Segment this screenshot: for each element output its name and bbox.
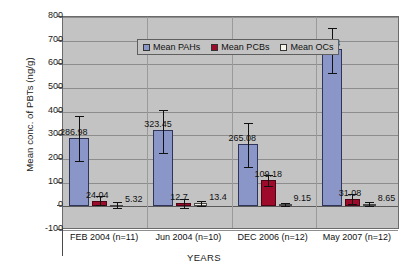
error-bar-cap-upper (159, 110, 168, 111)
data-label-pcb-1: 12.7 (170, 192, 188, 202)
legend-swatch-oc-icon (280, 44, 287, 51)
y-tick-mark (57, 134, 62, 135)
legend-item-pah: Mean PAHs (143, 42, 200, 52)
error-bar-cap-lower (197, 206, 206, 207)
y-tick-label: 100 (23, 176, 63, 186)
error-bar-cap-lower (180, 208, 189, 209)
error-bar-cap-upper (281, 203, 290, 204)
gridline--100 (63, 230, 398, 231)
y-tick-label: 400 (23, 105, 63, 115)
data-label-pcb-2: 109.18 (255, 169, 283, 179)
y-tick-mark (57, 229, 62, 230)
data-label-oc-2: 9.15 (294, 193, 312, 203)
error-bar-cap-upper (113, 202, 122, 203)
error-bar-cap-upper (328, 28, 337, 29)
error-bar-cap-lower (96, 205, 105, 206)
gridline-400 (63, 112, 398, 113)
y-tick-mark (57, 16, 62, 17)
category-label-1: Jun 2004 (n=10) (146, 232, 230, 242)
error-bar-cap-lower (244, 167, 253, 168)
error-bar-cap-lower (264, 186, 273, 187)
y-tick-label: 600 (23, 57, 63, 67)
category-label-0: FEB 2004 (n=11) (62, 232, 146, 242)
category-label-3: May 2007 (n=12) (315, 232, 399, 242)
error-bar-cap-lower (281, 206, 290, 207)
data-label-oc-3: 8.65 (378, 193, 396, 203)
error-bar-cap-upper (75, 116, 84, 117)
legend-swatch-pah-icon (143, 44, 150, 51)
error-bar-cap-upper (244, 123, 253, 124)
chart-legend: Mean PAHsMean PCBsMean OCs (137, 39, 339, 55)
legend-item-pcb: Mean PCBs (211, 42, 269, 52)
gridline-500 (63, 88, 398, 89)
y-tick-mark (57, 205, 62, 206)
y-tick-label: 700 (23, 34, 63, 44)
y-tick-mark (57, 40, 62, 41)
y-tick-label: 200 (23, 152, 63, 162)
y-tick-label: 300 (23, 128, 63, 138)
data-label-pah-0: 286.98 (60, 127, 88, 137)
data-label-oc-0: 5.32 (125, 194, 143, 204)
y-tick-mark (57, 158, 62, 159)
bar-chart: Mean conc. of PBTs (ng/g) YEARS 286.9832… (0, 0, 408, 274)
legend-label: Mean PAHs (153, 42, 200, 52)
y-tick-mark (57, 63, 62, 64)
gridline-200 (63, 159, 398, 160)
y-tick-label: -100 (23, 223, 63, 233)
data-label-pcb-3: 31.08 (339, 188, 362, 198)
error-bar-stem (163, 110, 164, 153)
legend-item-oc: Mean OCs (280, 42, 333, 52)
error-bar-cap-lower (348, 204, 357, 205)
data-label-pah-1: 323.45 (144, 119, 172, 129)
error-bar-cap-lower (159, 153, 168, 154)
gridline-100 (63, 183, 398, 184)
error-bar-cap-upper (365, 202, 374, 203)
y-tick-mark (57, 87, 62, 88)
error-bar-cap-lower (365, 206, 374, 207)
y-tick-label: 500 (23, 81, 63, 91)
legend-label: Mean OCs (290, 42, 333, 52)
y-tick-mark (57, 111, 62, 112)
legend-label: Mean PCBs (221, 42, 269, 52)
data-label-pah-2: 265.08 (229, 133, 257, 143)
error-bar-cap-upper (197, 201, 206, 202)
plot-area: 286.98323.45265.08665.4424.0412.7109.183… (62, 16, 399, 229)
y-tick-label: 800 (23, 10, 63, 20)
y-tick-label: 0 (23, 199, 63, 209)
legend-swatch-pcb-icon (211, 44, 218, 51)
error-bar-cap-lower (113, 208, 122, 209)
data-label-pcb-0: 24.04 (86, 190, 109, 200)
category-label-2: DEC 2006 (n=12) (231, 232, 315, 242)
y-tick-mark (57, 182, 62, 183)
error-bar-cap-lower (75, 161, 84, 162)
error-bar-stem (79, 116, 80, 161)
gridline-600 (63, 64, 398, 65)
data-label-oc-1: 13.4 (209, 192, 227, 202)
error-bar-stem (248, 123, 249, 167)
gridline-800 (63, 17, 398, 18)
error-bar-cap-lower (328, 73, 337, 74)
